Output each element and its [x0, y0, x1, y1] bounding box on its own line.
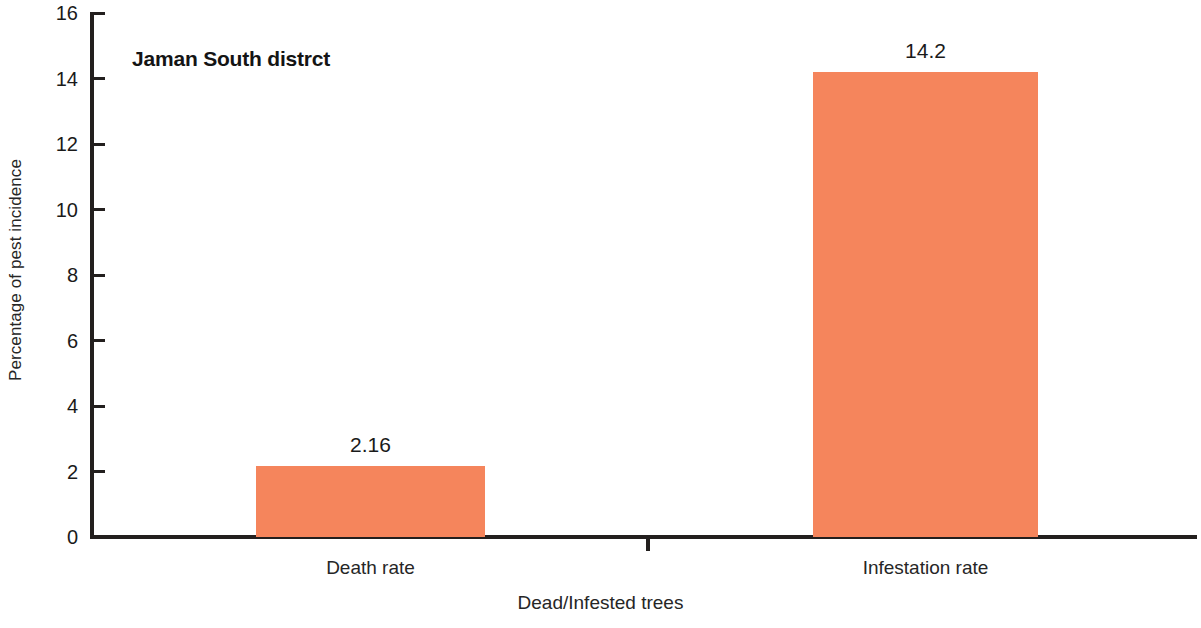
y-axis-tick-label: 6 [30, 331, 78, 351]
y-axis-tick-label: 12 [30, 134, 78, 154]
y-axis-tick-label: 0 [30, 527, 78, 547]
y-axis-title: Percentage of pest incidence [0, 0, 32, 540]
y-axis-tick-mark [92, 470, 105, 473]
y-axis-tick-label: 14 [30, 69, 78, 89]
y-axis-tick-mark [92, 274, 105, 277]
x-axis-category-label: Infestation rate [753, 558, 1098, 577]
x-axis-category-tick [646, 538, 650, 551]
y-axis-tick-label: 2 [30, 462, 78, 482]
y-axis-tick-label: 8 [30, 265, 78, 285]
y-axis-tick-mark [92, 536, 105, 539]
y-axis-tick-mark [92, 405, 105, 408]
y-axis-tick-mark [92, 143, 105, 146]
bar-chart: Percentage of pest incidence 02468101214… [0, 0, 1201, 628]
x-axis-title: Dead/Infested trees [0, 592, 1201, 614]
y-axis-title-text: Percentage of pest incidence [6, 159, 26, 381]
bar [256, 466, 485, 537]
y-axis-tick-mark [92, 339, 105, 342]
y-axis-tick-mark [92, 208, 105, 211]
bar-value-label: 2.16 [216, 434, 525, 455]
y-axis-tick-label: 10 [30, 200, 78, 220]
x-axis-category-label: Death rate [196, 558, 545, 577]
y-axis-tick-mark [92, 77, 105, 80]
chart-title: Jaman South distrct [132, 47, 330, 71]
y-axis-tick-label: 16 [30, 3, 78, 23]
y-axis-tick-label: 4 [30, 396, 78, 416]
bar [813, 72, 1038, 537]
y-axis-tick-mark [92, 12, 105, 15]
bar-value-label: 14.2 [773, 40, 1078, 61]
